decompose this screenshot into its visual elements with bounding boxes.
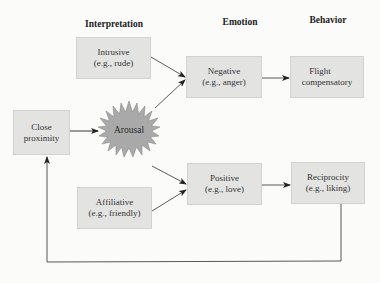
diagram-canvas: Interpretation Emotion Behavior Close pr… [0,0,380,283]
node-negative-line1: Negative [208,66,240,77]
column-header-interpretation: Interpretation [85,19,143,29]
node-flight-compensatory: Flight compensatory [290,56,364,98]
arrow-affiliative-to-positive [152,190,186,211]
node-reciprocity-line2: (e.g., liking) [306,183,351,194]
node-intrusive: Intrusive (e.g., rude) [76,37,151,79]
node-close-proximity: Close proximity [13,110,70,155]
node-positive-line1: Positive [210,173,239,184]
arrow-arousal-to-negative [155,80,185,108]
node-arousal-label: Arousal [114,125,144,135]
node-intrusive-line1: Intrusive [98,47,130,58]
node-flight-line1: Flight [309,66,331,77]
node-flight-line2: compensatory [302,77,352,88]
node-close-proximity-line1: Close [31,122,52,133]
node-reciprocity-line1: Reciprocity [307,172,349,183]
node-close-proximity-line2: proximity [24,133,60,144]
node-affiliative-line1: Affiliative [96,197,133,208]
node-positive: Positive (e.g., love) [187,163,262,205]
arrow-arousal-to-positive [152,166,186,184]
column-header-emotion: Emotion [223,17,258,27]
node-positive-line2: (e.g., love) [205,184,244,195]
node-reciprocity: Reciprocity (e.g., liking) [291,162,365,204]
arrow-intrusive-to-negative [151,57,185,77]
node-affiliative: Affiliative (e.g., friendly) [77,187,152,229]
column-header-behavior: Behavior [310,15,347,25]
node-affiliative-line2: (e.g., friendly) [89,208,141,219]
node-intrusive-line2: (e.g., rude) [94,58,133,69]
node-negative: Negative (e.g., anger) [186,56,262,98]
node-negative-line2: (e.g., anger) [202,77,245,88]
